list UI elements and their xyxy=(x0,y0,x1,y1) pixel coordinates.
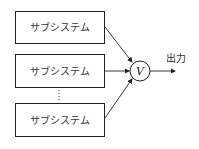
subsystem-combiner-diagram: サブシステム サブシステム サブシステム V 出力 xyxy=(0,0,199,149)
combiner-node: V xyxy=(130,61,150,81)
subsystem-label: サブシステム xyxy=(30,114,90,126)
or-operator-symbol: V xyxy=(136,65,145,78)
arrow-1-to-combiner xyxy=(105,27,132,62)
subsystem-box-1: サブシステム xyxy=(16,12,105,44)
subsystem-label: サブシステム xyxy=(30,21,90,33)
subsystem-box-2: サブシステム xyxy=(16,55,105,88)
subsystem-label: サブシステム xyxy=(30,65,90,77)
subsystem-box-3: サブシステム xyxy=(16,104,105,137)
output-label: 出力 xyxy=(166,52,186,64)
arrow-3-to-combiner xyxy=(105,79,132,118)
